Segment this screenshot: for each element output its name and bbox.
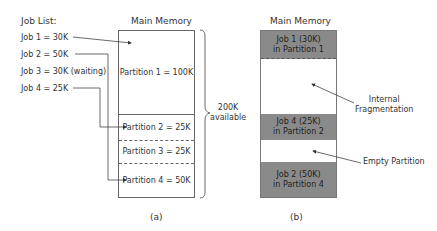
empty-partition-arrow-icon bbox=[313, 151, 361, 163]
internal-fragmentation-arrow-icon bbox=[312, 84, 354, 103]
brace-icon bbox=[200, 30, 210, 198]
connector-lines bbox=[0, 0, 437, 231]
job-2-arrow-icon bbox=[75, 54, 126, 180]
job-1-arrow-icon bbox=[73, 37, 131, 43]
job-4-arrow-icon bbox=[73, 88, 126, 127]
